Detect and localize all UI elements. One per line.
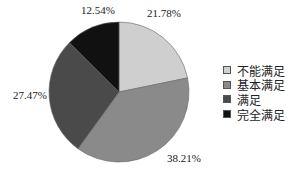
label-satisfied: 27.47% [13,89,47,101]
legend-item-satisfied: 满足 [223,92,285,107]
legend-swatch [223,66,231,74]
legend-swatch [223,95,231,103]
legend: 不能满足 基本满足 满足 完全满足 [223,63,285,121]
legend-swatch [223,81,231,89]
legend-item-not-satisfied: 不能满足 [223,63,285,78]
legend-item-basically-satisfied: 基本满足 [223,78,285,93]
label-basically-satisfied: 38.21% [167,152,201,164]
legend-label: 完全满足 [237,106,285,123]
legend-swatch [223,110,231,118]
label-fully-satisfied: 12.54% [81,4,115,16]
legend-item-fully-satisfied: 完全满足 [223,107,285,122]
label-not-satisfied: 21.78% [147,7,181,19]
